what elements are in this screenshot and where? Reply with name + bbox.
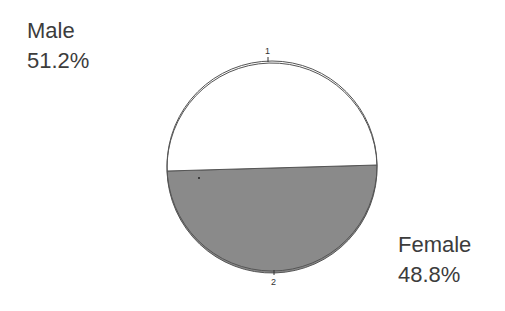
tick-label-2: 2 bbox=[271, 277, 276, 287]
slice-female bbox=[167, 165, 377, 273]
tick-label-1: 1 bbox=[265, 46, 270, 56]
speck bbox=[198, 177, 200, 179]
slice-male bbox=[167, 63, 377, 171]
female-percentage: 48.8% bbox=[398, 260, 471, 290]
female-label: Female 48.8% bbox=[398, 230, 471, 290]
female-category: Female bbox=[398, 232, 471, 257]
